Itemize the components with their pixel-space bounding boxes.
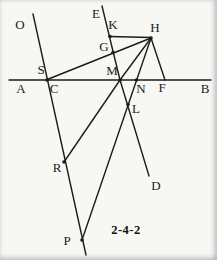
point-dot-R	[62, 160, 66, 164]
point-label-K: K	[108, 18, 117, 31]
point-label-H: H	[150, 21, 159, 34]
point-label-G: G	[99, 40, 108, 53]
line-K-H	[109, 37, 151, 38]
point-dot-K	[108, 35, 112, 39]
point-label-A: A	[16, 82, 25, 95]
point-label-F: F	[158, 81, 165, 94]
point-label-R: R	[53, 161, 62, 174]
point-label-S: S	[37, 63, 44, 76]
point-label-E: E	[92, 7, 100, 20]
point-label-M: M	[106, 64, 118, 77]
point-label-P: P	[63, 234, 70, 247]
point-dot-S	[45, 78, 49, 82]
line-M-R	[64, 80, 120, 162]
point-dot-L	[126, 103, 130, 107]
point-label-L: L	[132, 102, 140, 115]
point-label-C: C	[50, 82, 59, 95]
point-dot-H	[149, 36, 153, 40]
point-label-O: O	[15, 18, 24, 31]
point-dot-P	[80, 238, 84, 242]
line-O-S-R-P	[33, 14, 86, 255]
figure-2-4-2: OEKHGSMACNFBLRDP2-4-2	[0, 0, 217, 260]
point-dot-M	[118, 78, 122, 82]
point-dot-G	[111, 51, 115, 55]
line-H-F	[151, 38, 165, 80]
point-label-D: D	[151, 179, 160, 192]
point-label-B: B	[201, 82, 210, 95]
point-label-N: N	[136, 82, 145, 95]
figure-number-caption: 2-4-2	[111, 224, 141, 237]
